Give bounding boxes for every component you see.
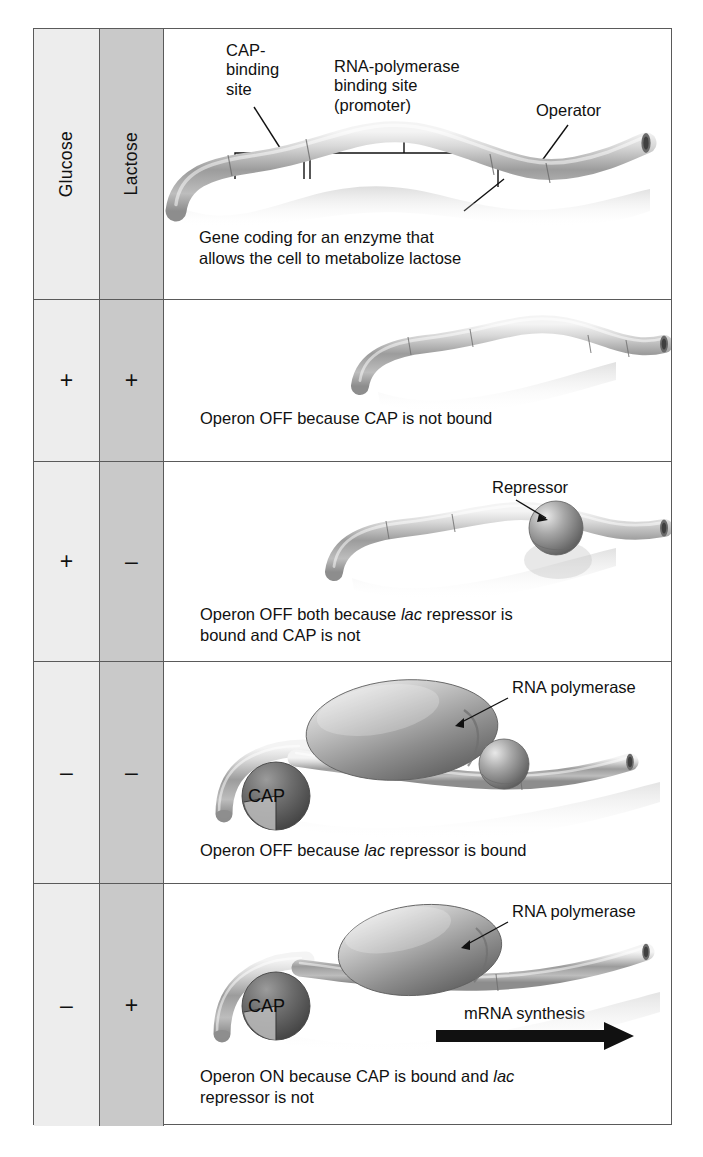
lac-operon-figure: Glucose Lactose CAP- binding site RNA-po…: [33, 28, 672, 1125]
lactose-state-row3: –: [125, 550, 138, 573]
leader-cap-site: [254, 107, 282, 151]
column-header-glucose: Glucose: [56, 131, 77, 197]
table-row-glucose-plus-lactose-minus: + – Repressor Operon OFF both because la…: [34, 461, 671, 661]
shadow-row5: [284, 992, 660, 1053]
protein-repressor-row4: [479, 739, 529, 789]
diagram-reference: CAP- binding site RNA-polymerase binding…: [164, 29, 671, 299]
diagram-row5: RNA polymerase mRNA synthesis Operon ON …: [164, 884, 671, 1126]
table-row-glucose-plus-lactose-plus: + + Operon OFF because CAP is not bound: [34, 299, 671, 461]
label-cap-row5: CAP: [248, 996, 285, 1016]
diagram-row5-svg: CAP: [164, 884, 671, 1126]
diagram-row4: RNA polymerase Operon OFF because lac re…: [164, 662, 671, 883]
diagram-row3: Repressor Operon OFF both because lac re…: [164, 462, 671, 661]
cell-lactose-row2: +: [100, 300, 164, 461]
lactose-state-row5: +: [125, 994, 138, 1017]
column-header-lactose: Lactose: [121, 132, 142, 195]
glucose-state-row4: –: [60, 761, 73, 784]
dna-shadow-row2: [378, 362, 616, 412]
table-row-glucose-minus-lactose-minus: – – RNA polymerase Operon OFF because la…: [34, 661, 671, 883]
diagram-row4-svg: CAP: [164, 662, 671, 883]
glucose-state-row3: +: [60, 550, 73, 573]
table-row-glucose-minus-lactose-plus: – + RNA polymerase mRNA synthesis Operon…: [34, 883, 671, 1126]
cell-glucose-row5: –: [34, 884, 100, 1126]
dna-strand-row2: [360, 319, 668, 386]
dna-strand-row3: [334, 506, 668, 572]
shadow-row4: [284, 782, 660, 840]
glucose-state-row5: –: [60, 994, 73, 1017]
label-cap-row4: CAP: [248, 786, 285, 806]
cell-lactose-row3: –: [100, 462, 164, 661]
diagram-row2: Operon OFF because CAP is not bound: [164, 300, 671, 461]
cell-lactose-row4: –: [100, 662, 164, 883]
dna-shadow: [178, 186, 650, 227]
cell-glucose-row2: +: [34, 300, 100, 461]
cell-lactose-reference: Lactose: [100, 29, 164, 299]
table-row-reference: Glucose Lactose CAP- binding site RNA-po…: [34, 29, 671, 299]
dna-strand-row3-svg: [164, 462, 671, 661]
dna-strand-reference-svg: [164, 29, 671, 299]
glucose-state-row2: +: [60, 369, 73, 392]
dna-strand-row2-svg: [164, 300, 671, 461]
cell-lactose-row5: +: [100, 884, 164, 1126]
cell-glucose-reference: Glucose: [34, 29, 100, 299]
cell-glucose-row4: –: [34, 662, 100, 883]
lactose-state-row2: +: [125, 369, 138, 392]
lactose-state-row4: –: [125, 761, 138, 784]
cell-glucose-row3: +: [34, 462, 100, 661]
